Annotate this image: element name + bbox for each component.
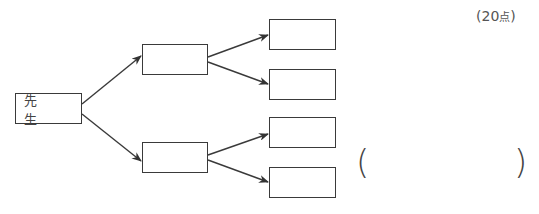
root-node-label: 先 生 [24, 90, 81, 128]
level1-node-top-box[interactable] [142, 44, 208, 75]
answer-close-paren: ) [514, 142, 527, 182]
level1-node-bottom-box[interactable] [142, 142, 208, 173]
root-node-box: 先 生 [15, 93, 82, 124]
level2-node-3-box[interactable] [269, 117, 336, 148]
level2-node-4-box[interactable] [269, 167, 336, 198]
answer-open-paren: ( [356, 142, 369, 182]
level2-node-1-box[interactable] [269, 19, 336, 50]
answer-field[interactable] [380, 150, 510, 182]
level2-node-2-box[interactable] [269, 69, 336, 100]
